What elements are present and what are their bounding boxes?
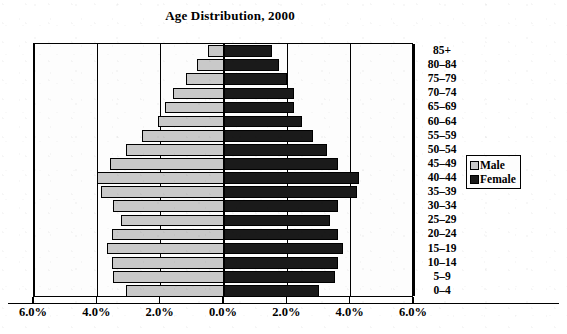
- bar-female-50–54: [224, 144, 327, 156]
- age-group-label-85+: 85+: [418, 43, 466, 57]
- bar-male-55–59: [142, 130, 224, 142]
- bar-female-25–29: [224, 215, 330, 227]
- chart-legend: MaleFemale: [466, 155, 521, 189]
- age-group-label-5–9: 5–9: [418, 269, 466, 283]
- bar-female-40–44: [224, 172, 359, 184]
- legend-item-male[interactable]: Male: [470, 158, 516, 172]
- gridline-6.0%-6: [413, 44, 414, 296]
- age-group-label-10–14: 10–14: [418, 255, 466, 269]
- bar-row: [34, 242, 412, 256]
- age-group-label-15–19: 15–19: [418, 241, 466, 255]
- bar-male-10–14: [112, 257, 224, 269]
- bar-male-50–54: [126, 144, 224, 156]
- legend-label: Male: [480, 159, 505, 171]
- bar-male-0–4: [126, 285, 224, 297]
- bar-male-20–24: [112, 229, 224, 241]
- bar-row: [34, 58, 412, 72]
- bar-female-15–19: [224, 243, 343, 255]
- bar-row: [34, 143, 412, 157]
- bar-male-40–44: [97, 172, 224, 184]
- x-axis-baseline: [8, 303, 559, 304]
- bar-female-0–4: [224, 285, 319, 297]
- bar-male-15–19: [107, 243, 224, 255]
- bar-male-25–29: [121, 215, 224, 227]
- bar-male-70–74: [173, 88, 224, 100]
- x-axis-label: 2.0%: [272, 305, 300, 320]
- x-axis-label: 4.0%: [82, 305, 110, 320]
- x-axis-label: 2.0%: [146, 305, 174, 320]
- bar-male-65–69: [165, 102, 224, 114]
- bar-female-60–64: [224, 116, 302, 128]
- x-axis-labels: 6.0%4.0%2.0%0.0%2.0%4.0%6.0%: [33, 305, 413, 323]
- female-swatch-icon: [470, 175, 479, 184]
- age-group-label-80–84: 80–84: [418, 57, 466, 71]
- bar-row: [34, 199, 412, 213]
- bar-female-10–14: [224, 257, 338, 269]
- bar-row: [34, 100, 412, 114]
- age-group-label-70–74: 70–74: [418, 85, 466, 99]
- x-axis-label: 4.0%: [336, 305, 364, 320]
- legend-item-female[interactable]: Female: [470, 172, 516, 186]
- bar-male-80–84: [197, 59, 224, 71]
- bar-row: [34, 270, 412, 284]
- bar-row: [34, 44, 412, 58]
- population-pyramid-chart: Age Distribution, 2000 6.0%4.0%2.0%0.0%2…: [0, 0, 567, 334]
- bar-female-5–9: [224, 271, 335, 283]
- bar-row: [34, 171, 412, 185]
- bar-male-30–34: [113, 200, 224, 212]
- age-group-label-55–59: 55–59: [418, 128, 466, 142]
- bar-female-55–59: [224, 130, 313, 142]
- age-group-label-30–34: 30–34: [418, 198, 466, 212]
- bar-male-5–9: [113, 271, 224, 283]
- age-group-label-20–24: 20–24: [418, 226, 466, 240]
- bar-male-75–79: [186, 73, 224, 85]
- bar-row: [34, 213, 412, 227]
- x-axis-label: 6.0%: [19, 305, 47, 320]
- legend-label: Female: [480, 173, 516, 185]
- plot-area: [33, 43, 413, 297]
- bar-row: [34, 227, 412, 241]
- bar-female-30–34: [224, 200, 338, 212]
- male-swatch-icon: [470, 161, 479, 170]
- age-group-label-60–64: 60–64: [418, 114, 466, 128]
- bar-female-65–69: [224, 102, 294, 114]
- bar-row: [34, 185, 412, 199]
- age-group-label-40–44: 40–44: [418, 170, 466, 184]
- y-axis-age-group-labels: 85+80–8475–7970–7465–6960–6455–5950–5445…: [418, 43, 466, 297]
- bar-female-20–24: [224, 229, 338, 241]
- bar-male-45–49: [110, 158, 224, 170]
- bar-female-45–49: [224, 158, 338, 170]
- bar-female-85+: [224, 45, 272, 57]
- x-axis-label: 0.0%: [209, 305, 237, 320]
- bar-male-35–39: [101, 186, 225, 198]
- bar-row: [34, 129, 412, 143]
- age-group-label-50–54: 50–54: [418, 142, 466, 156]
- bar-row: [34, 284, 412, 298]
- bar-row: [34, 115, 412, 129]
- chart-title: Age Distribution, 2000: [0, 8, 460, 24]
- age-group-label-0–4: 0–4: [418, 283, 466, 297]
- age-group-label-45–49: 45–49: [418, 156, 466, 170]
- bar-row: [34, 256, 412, 270]
- age-group-label-75–79: 75–79: [418, 71, 466, 85]
- bar-row: [34, 86, 412, 100]
- bar-male-85+: [208, 45, 224, 57]
- bar-female-35–39: [224, 186, 357, 198]
- bar-female-70–74: [224, 88, 294, 100]
- bar-male-60–64: [158, 116, 225, 128]
- bar-female-75–79: [224, 73, 287, 85]
- bar-female-80–84: [224, 59, 279, 71]
- bar-row: [34, 157, 412, 171]
- bar-row: [34, 72, 412, 86]
- age-group-label-25–29: 25–29: [418, 212, 466, 226]
- age-group-label-65–69: 65–69: [418, 99, 466, 113]
- x-axis-label: 6.0%: [399, 305, 427, 320]
- age-group-label-35–39: 35–39: [418, 184, 466, 198]
